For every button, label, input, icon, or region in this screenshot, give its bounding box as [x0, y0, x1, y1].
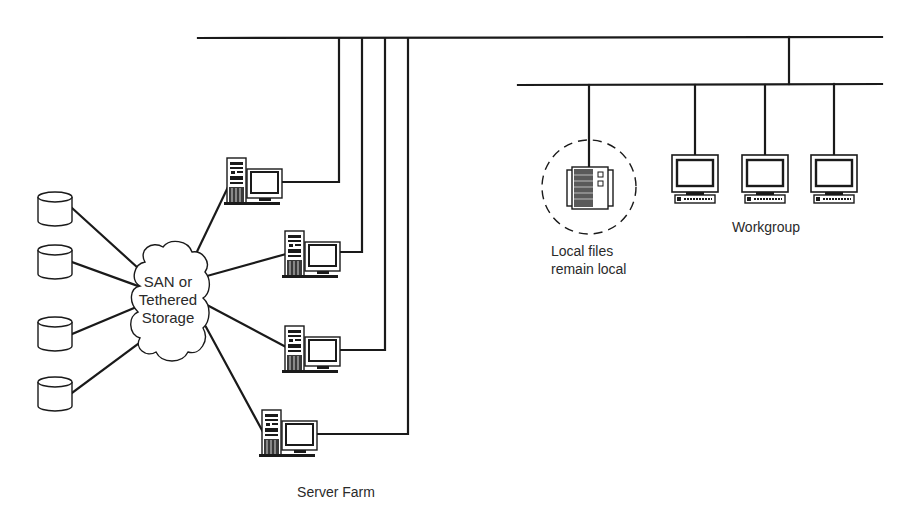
workstation-2-icon	[742, 155, 788, 203]
cloud-label-line1: SAN or	[144, 273, 192, 290]
server-4-icon	[259, 410, 317, 457]
local-files-label-line1: Local files	[551, 243, 613, 259]
server-farm-label: Server Farm	[297, 484, 375, 500]
server-3-icon	[282, 326, 340, 373]
workgroup: Workgroup	[672, 84, 857, 235]
workstation-1-icon	[672, 155, 718, 203]
local-files-label-line2: remain local	[551, 261, 626, 277]
server-1-icon	[224, 158, 282, 205]
local-storage-device-icon	[567, 167, 613, 209]
san-cloud: SAN or Tethered Storage	[131, 241, 210, 361]
workstation-3-icon	[811, 155, 857, 203]
san-network-diagram: SAN or Tethered Storage Server Farm Loca…	[0, 0, 908, 510]
cloud-label-line2: Tethered	[139, 291, 197, 308]
storage-disk-1-icon	[38, 192, 72, 226]
local-storage: Local files remain local	[542, 85, 636, 277]
storage-disk-2-icon	[38, 245, 72, 279]
storage-disk-4-icon	[38, 377, 72, 411]
backbone-lan	[198, 37, 882, 38]
storage-disk-3-icon	[38, 317, 72, 351]
workgroup-label: Workgroup	[732, 219, 800, 235]
server-2-icon	[282, 231, 340, 278]
workgroup-lan	[518, 37, 882, 85]
cloud-label-line3: Storage	[142, 309, 195, 326]
